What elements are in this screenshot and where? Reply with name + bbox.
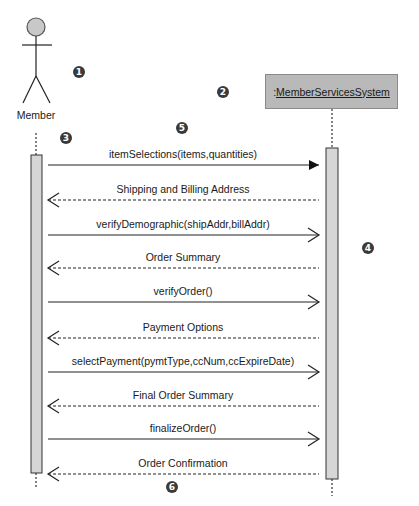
message-arrow-2 [48, 193, 319, 207]
message-label-6: Payment Options [143, 321, 224, 333]
message-label-3: verifyDemographic(shipAddr,billAddr) [96, 218, 269, 230]
message-arrow-4 [48, 261, 319, 275]
message-arrow-10 [48, 467, 319, 481]
message-label-5: verifyOrder() [154, 285, 213, 297]
message-label-7: selectPayment(pymtType,ccNum,ccExpireDat… [72, 355, 294, 367]
message-arrow-9 [48, 432, 319, 446]
actor-member-label: Member [17, 109, 56, 121]
message-label-10: Order Confirmation [138, 457, 227, 469]
message-arrow-6 [48, 331, 319, 345]
message-label-8: Final Order Summary [133, 389, 233, 401]
callout-badge-1: 1 [73, 66, 85, 78]
message-arrow-1 [48, 160, 319, 170]
actor-member-figure [22, 18, 52, 103]
message-label-9: finalizeOrder() [150, 422, 217, 434]
callout-badge-3: 3 [60, 132, 72, 144]
message-label-2: Shipping and Billing Address [116, 183, 249, 195]
message-arrow-5 [48, 295, 319, 309]
message-arrow-7 [48, 365, 319, 379]
message-label-1: itemSelections(items,quantities) [109, 148, 257, 160]
message-arrow-8 [48, 399, 319, 413]
callout-badge-5: 5 [176, 122, 188, 134]
system-activation-bar [326, 148, 338, 479]
object-name: MemberServicesSystem [276, 86, 390, 98]
callout-badge-4: 4 [362, 242, 374, 254]
callout-badge-6: 6 [166, 481, 178, 493]
message-label-4: Order Summary [146, 251, 221, 263]
member-activation-bar [31, 155, 42, 473]
callout-badge-2: 2 [217, 86, 229, 98]
member-services-system-object: : MemberServicesSystem [265, 74, 398, 109]
message-arrow-3 [48, 228, 319, 242]
